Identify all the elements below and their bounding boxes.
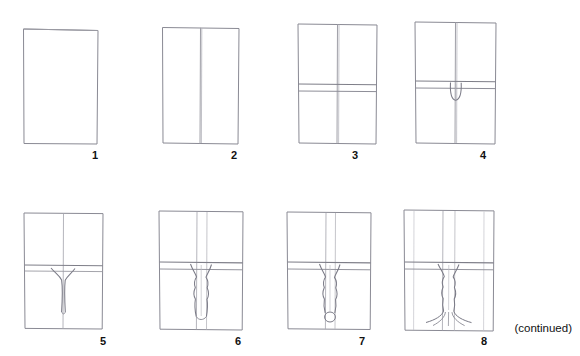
continued-caption: (continued): [514, 322, 572, 334]
panel-6: [157, 209, 247, 333]
panel-6-number: 6: [235, 336, 241, 347]
panel-2: [161, 26, 241, 146]
panel-3-number: 3: [352, 150, 358, 161]
panel-2-number: 2: [231, 150, 237, 161]
panel-5-number: 5: [100, 336, 106, 347]
panel-7-number: 7: [359, 336, 365, 347]
panel-1-number: 1: [92, 150, 98, 161]
panel-4-number: 4: [480, 150, 486, 161]
panel-3: [296, 22, 380, 146]
panel-8: [402, 208, 498, 334]
figure-sheet: 1 2 3: [0, 0, 580, 356]
panel-5: [22, 211, 106, 331]
panel-1: [22, 28, 100, 146]
panel-4: [413, 20, 499, 146]
panel-8-number: 8: [481, 336, 487, 347]
panel-7: [285, 210, 375, 332]
